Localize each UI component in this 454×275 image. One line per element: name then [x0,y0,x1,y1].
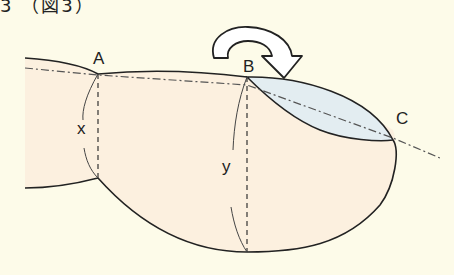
label-x: x [77,120,86,137]
label-c: C [396,110,408,127]
label-y: y [222,158,231,175]
diagram-stage: 3 （図3） A B C x y [0,0,454,275]
curved-arrow-clockwise-icon [213,27,302,78]
finger-body [25,58,396,252]
label-b: B [243,58,254,75]
label-a: A [93,50,104,67]
finger-diagram [0,0,454,275]
